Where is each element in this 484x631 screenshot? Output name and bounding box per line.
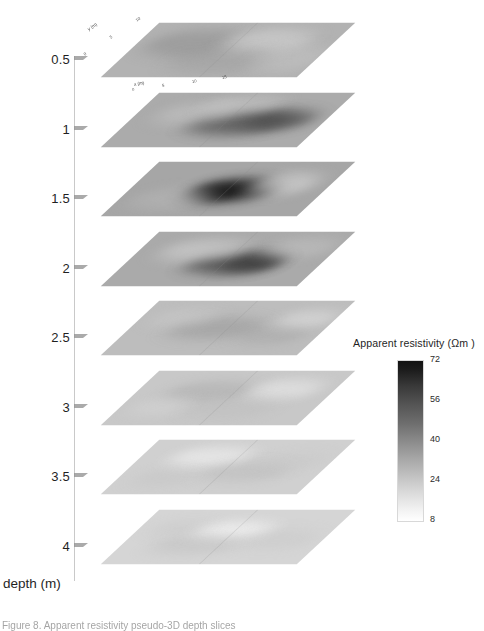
depth-tick-label: 2 — [63, 261, 70, 276]
depth-tick: 2 — [0, 261, 70, 275]
depth-tick-mark — [74, 195, 88, 199]
depth-slice-3 — [101, 370, 356, 425]
depth-slice-2-5 — [101, 301, 356, 356]
depth-tick: 0.5 — [0, 52, 70, 66]
resistivity-depth-slice-figure: 0510y (m)051015x (m) 0.511.522.533.54 de… — [0, 0, 484, 631]
depth-tick-mark — [74, 404, 88, 408]
depth-slice-3-5 — [101, 440, 356, 495]
slice-surface — [101, 162, 356, 217]
figure-caption: Figure 8. Apparent resistivity pseudo-3D… — [2, 620, 235, 631]
depth-axis-line — [74, 56, 75, 581]
slice-surface — [101, 440, 356, 495]
depth-slice-2 — [101, 231, 356, 286]
depth-tick-mark — [74, 543, 88, 547]
colorbar-tick-label: 24 — [430, 474, 440, 484]
depth-tick: 3.5 — [0, 469, 70, 483]
slice-surface — [101, 370, 356, 425]
depth-slice-0-5 — [101, 23, 356, 78]
depth-tick-mark — [74, 334, 88, 338]
slice-surface — [101, 23, 356, 78]
resistivity-anomaly — [268, 311, 347, 328]
plan-x-axis-title: x (m) — [134, 80, 145, 87]
plan-x-tick-label: 15 — [222, 74, 227, 80]
colorbar-tick-label: 72 — [430, 354, 440, 364]
plan-y-axis-title: y (m) — [87, 22, 99, 32]
depth-tick-label: 0.5 — [51, 52, 70, 67]
colorbar-tick-label: 40 — [430, 434, 440, 444]
slice-surface — [101, 231, 356, 286]
depth-slice-1 — [101, 92, 356, 147]
depth-slice-4 — [101, 509, 356, 564]
depth-tick-label: 4 — [63, 539, 70, 554]
plan-x-tick-label: 10 — [192, 78, 197, 84]
slice-surface — [101, 92, 356, 147]
depth-tick: 4 — [0, 539, 70, 553]
depth-tick: 1 — [0, 122, 70, 136]
plan-y-tick-label: 5 — [109, 34, 114, 39]
depth-tick: 2.5 — [0, 330, 70, 344]
colorbar-gradient — [397, 360, 424, 522]
depth-tick-mark — [74, 473, 88, 477]
resistivity-anomaly — [141, 534, 250, 554]
depth-tick-label: 2.5 — [51, 330, 70, 345]
depth-tick-label: 1.5 — [51, 191, 70, 206]
slice-surface — [101, 301, 356, 356]
resistivity-anomaly — [175, 399, 284, 419]
plan-x-tick-label: 5 — [162, 83, 165, 88]
depth-tick-mark — [74, 265, 88, 269]
colorbar-tick-label: 8 — [430, 514, 435, 524]
depth-axis-title: depth (m) — [3, 576, 61, 591]
depth-tick-mark — [74, 126, 88, 130]
resistivity-anomaly — [241, 173, 329, 195]
colorbar-title: Apparent resistivity (Ωm ) — [353, 337, 475, 349]
resistivity-anomaly — [125, 469, 204, 486]
colorbar-tick-label: 56 — [430, 394, 440, 404]
depth-tick-label: 3.5 — [51, 469, 70, 484]
resistivity-anomaly — [253, 452, 336, 469]
depth-tick: 3 — [0, 400, 70, 414]
depth-tick-label: 3 — [63, 400, 70, 415]
depth-slice-1-5 — [101, 162, 356, 217]
plan-y-tick-label: 10 — [135, 16, 142, 23]
depth-tick-label: 1 — [63, 122, 70, 137]
resistivity-anomaly — [257, 237, 346, 257]
slice-surface — [101, 509, 356, 564]
depth-tick-mark — [74, 56, 88, 60]
depth-tick: 1.5 — [0, 191, 70, 205]
plan-x-tick-label: 0 — [132, 87, 135, 92]
resistivity-anomaly — [239, 379, 332, 399]
